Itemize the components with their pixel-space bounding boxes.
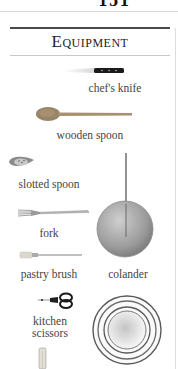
colander-icon: [96, 152, 156, 262]
chefs-knife-label: chef's knife: [70, 82, 160, 94]
slotted-spoon-icon: [8, 155, 36, 169]
pastry-brush-label: pastry brush: [4, 268, 94, 280]
section-rule: [10, 27, 170, 29]
wooden-spoon-label: wooden spoon: [40, 129, 140, 141]
rolling-pin-icon: [38, 348, 48, 369]
slotted-spoon-label: slotted spoon: [4, 178, 94, 190]
page-edge-line: [175, 28, 176, 369]
section-underline: [10, 55, 170, 56]
kitchen-scissors-label-line1: kitchen: [20, 315, 80, 327]
wooden-spoon-icon: [36, 105, 134, 123]
colander-label: colander: [98, 268, 158, 280]
fork-label: fork: [4, 227, 94, 239]
section-title: Equipment: [10, 32, 170, 52]
chefs-knife-icon: [62, 66, 126, 76]
page-number: 151: [98, 0, 128, 5]
mixing-bowls-icon: [90, 290, 162, 369]
pastry-brush-icon: [20, 251, 84, 259]
kitchen-scissors-label-line2: scissors: [20, 327, 80, 339]
kitchen-scissors-icon: [38, 293, 74, 309]
top-divider: [0, 11, 178, 12]
fork-icon: [18, 208, 90, 218]
